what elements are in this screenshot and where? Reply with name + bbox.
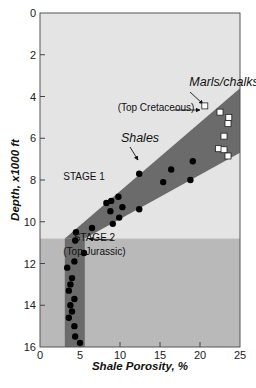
marl-chalk-point [221, 133, 227, 139]
shale-point [168, 166, 174, 172]
shale-point [110, 221, 116, 227]
porosity-depth-chart: 02468101214160510152025 Marls/chalks(Top… [0, 0, 256, 388]
shale-point [116, 214, 122, 220]
marl-chalk-point [225, 121, 231, 127]
marl-chalk-point [202, 103, 208, 109]
y-tick-label: 4 [30, 91, 36, 103]
shale-point [67, 302, 73, 308]
y-tick-label: 16 [24, 341, 36, 353]
annotation-stage-2: STAGE 2 [74, 232, 116, 243]
x-tick-label: 25 [234, 349, 246, 361]
annotation-stage-1: STAGE 1 [63, 171, 105, 182]
x-axis-title: Shale Porosity, % [92, 360, 188, 372]
shale-point [89, 225, 95, 231]
shale-point [136, 171, 142, 177]
x-tick-label: 0 [37, 349, 43, 361]
shale-point [71, 296, 77, 302]
shale-point [160, 179, 166, 185]
shale-point [64, 264, 70, 270]
marl-chalk-point [217, 109, 223, 115]
shale-point [190, 158, 196, 164]
shale-point [72, 333, 78, 339]
annotation-top-cretaceous: (Top Cretaceous) [118, 102, 195, 113]
shale-point [66, 287, 72, 293]
shale-point [103, 200, 109, 206]
shale-point [66, 315, 72, 321]
shale-point [136, 206, 142, 212]
y-tick-label: 10 [24, 216, 36, 228]
marl-chalk-point [226, 114, 232, 120]
y-tick-label: 2 [30, 49, 36, 61]
shale-point [115, 194, 121, 200]
y-tick-label: 0 [30, 7, 36, 19]
y-tick-label: 6 [30, 132, 36, 144]
y-tick-label: 12 [24, 258, 36, 270]
shale-point [187, 177, 193, 183]
y-tick-label: 14 [24, 299, 36, 311]
x-tick-label: 5 [77, 349, 83, 361]
shale-point [71, 258, 77, 264]
marl-chalk-point [221, 147, 227, 153]
y-tick-label: 8 [30, 174, 36, 186]
shale-point [67, 281, 73, 287]
shale-point [69, 308, 75, 314]
shale-point [69, 275, 75, 281]
shale-point [71, 323, 77, 329]
shale-point [119, 204, 125, 210]
shale-point [77, 340, 83, 346]
annotation-shales: Shales [121, 131, 159, 145]
x-tick-label: 20 [194, 349, 206, 361]
marl-chalk-point [225, 153, 231, 159]
annotation-top-jurassic: (Top Jurassic) [63, 246, 125, 257]
shale-point [107, 208, 113, 214]
annotation-marls-chalks: Marls/chalks [189, 75, 256, 89]
y-axis-title: Depth, x1000 ft [9, 138, 21, 221]
marl-chalk-point [215, 146, 221, 152]
